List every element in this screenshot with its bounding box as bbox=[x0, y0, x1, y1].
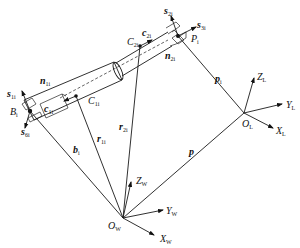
label-z-l: ZL bbox=[257, 71, 267, 83]
c1-arrow bbox=[64, 96, 76, 101]
label-b-i: Bi bbox=[10, 106, 18, 118]
s2-arrow bbox=[171, 16, 178, 36]
cylinder-body bbox=[24, 62, 122, 120]
label-vec-c-2i: c2i bbox=[142, 27, 151, 39]
label-vec-n-2i: n2i bbox=[165, 50, 176, 62]
label-vec-s-2i: s2i bbox=[163, 5, 173, 17]
label-y-w: YW bbox=[166, 205, 178, 217]
label-x-l: XL bbox=[275, 125, 286, 137]
label-x-w: XW bbox=[159, 233, 172, 245]
label-vec-b-i: bi bbox=[73, 144, 80, 156]
local-y-axis bbox=[244, 104, 282, 113]
local-frame bbox=[244, 78, 282, 128]
vector-b bbox=[30, 111, 123, 218]
label-c-2i: C2i bbox=[127, 36, 139, 48]
label-p-i: Pi bbox=[190, 33, 199, 45]
label-vec-s-1i: s1i bbox=[6, 88, 16, 100]
label-o-w: OW bbox=[108, 220, 121, 232]
vector-r1 bbox=[76, 96, 123, 218]
label-vec-n-1i: n1i bbox=[40, 75, 51, 87]
vector-p bbox=[123, 113, 244, 218]
label-vec-p: p bbox=[188, 146, 194, 157]
label-y-l: YL bbox=[286, 99, 296, 111]
vector-p-i bbox=[178, 36, 244, 113]
label-vec-c-1i: c1i bbox=[44, 103, 53, 115]
leg-axis bbox=[60, 40, 168, 98]
s6-arrow bbox=[25, 111, 30, 128]
world-frame bbox=[123, 182, 163, 235]
label-z-w: ZW bbox=[136, 175, 148, 187]
label-c-1i: C1i bbox=[88, 95, 100, 107]
s1-arrow bbox=[22, 91, 30, 111]
label-vec-s-3i: s3i bbox=[196, 19, 206, 31]
world-y-axis bbox=[123, 210, 163, 218]
label-vec-r-2i: r2i bbox=[119, 121, 128, 133]
world-x-axis bbox=[123, 218, 154, 235]
local-z-axis bbox=[244, 78, 254, 113]
label-o-l: OL bbox=[242, 118, 253, 130]
kinematic-diagram: OW ZW YW XW OL ZL YL XL Bi C1i C2i Pi bi… bbox=[0, 0, 300, 248]
label-vec-p-i: pi bbox=[214, 73, 222, 85]
label-vec-r-1i: r1i bbox=[97, 133, 106, 145]
